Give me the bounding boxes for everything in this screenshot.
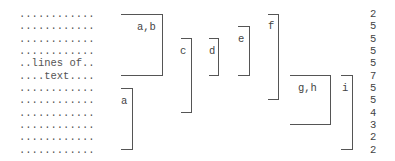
text-line: ..lines of.. bbox=[19, 57, 95, 69]
bracket-d bbox=[209, 38, 219, 76]
bracket-label: i bbox=[342, 82, 348, 94]
line-count: 5 bbox=[370, 57, 376, 69]
line-count: 5 bbox=[370, 82, 376, 94]
bracket-label: a bbox=[121, 95, 127, 107]
text-line: ............ bbox=[19, 33, 95, 45]
bracket-label: f bbox=[268, 20, 274, 32]
line-count: 4 bbox=[370, 107, 376, 119]
line-count: 2 bbox=[370, 144, 376, 156]
bracket-label: g,h bbox=[298, 82, 317, 94]
text-line: ............ bbox=[19, 94, 95, 106]
line-count: 5 bbox=[370, 45, 376, 57]
line-count: 5 bbox=[370, 33, 376, 45]
line-count: 5 bbox=[370, 94, 376, 106]
line-count: 7 bbox=[370, 70, 376, 82]
bracket-label: d bbox=[209, 45, 215, 57]
text-line: ....text.... bbox=[19, 70, 95, 82]
text-line: ............ bbox=[19, 107, 95, 119]
text-line: ............ bbox=[19, 82, 95, 94]
line-count: 2 bbox=[370, 8, 376, 20]
text-line: ............ bbox=[19, 20, 95, 32]
text-line: ............ bbox=[19, 131, 95, 143]
text-line: ............ bbox=[19, 8, 95, 20]
bracket-label: e bbox=[238, 33, 244, 45]
line-count: 2 bbox=[370, 131, 376, 143]
text-line: ............ bbox=[19, 144, 95, 156]
text-line: ............ bbox=[19, 119, 95, 131]
bracket-label: a,b bbox=[137, 21, 156, 33]
text-line: ............ bbox=[19, 45, 95, 57]
bracket-label: c bbox=[180, 45, 186, 57]
line-count: 3 bbox=[370, 119, 376, 131]
line-count: 5 bbox=[370, 20, 376, 32]
